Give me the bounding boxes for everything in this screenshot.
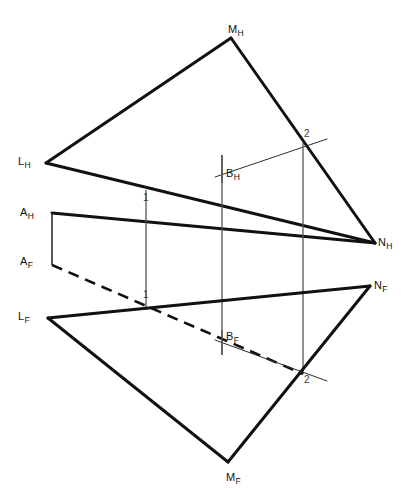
top-view-group	[46, 38, 375, 374]
label-a-f: AF	[20, 256, 33, 267]
label-b-h: BH	[226, 168, 239, 179]
descriptive-geometry-drawing	[0, 0, 412, 501]
label-n-h: NH	[378, 237, 392, 248]
label-piercing-point-2-front: 2	[304, 375, 310, 385]
label-l-h: LH	[18, 156, 30, 167]
edge-mf-nf	[228, 286, 370, 462]
label-piercing-point-1-front: 1	[143, 290, 149, 300]
label-m-h: MH	[228, 24, 243, 35]
label-a-h: AH	[20, 207, 33, 218]
label-piercing-point-2-top: 2	[304, 129, 310, 139]
line-af-bf-hidden	[52, 265, 303, 374]
label-m-f: MF	[226, 472, 240, 483]
technical-drawing-canvas: MH LH NH BH AH AF LF NF BF MF 1 2 1 2	[0, 0, 412, 501]
label-piercing-point-1-top: 1	[143, 193, 149, 203]
line-ah-bh	[52, 213, 375, 243]
front-view-group	[48, 265, 370, 462]
label-b-f: BF	[226, 331, 239, 342]
edge-lh-mh	[46, 38, 231, 163]
edge-lf-mf	[48, 318, 228, 462]
edge-lf-nf	[48, 286, 370, 318]
label-l-f: LF	[18, 311, 29, 322]
label-n-f: NF	[374, 280, 387, 291]
